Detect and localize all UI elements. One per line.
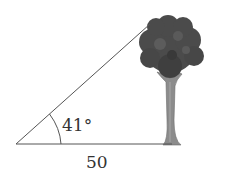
angle-arc: [50, 114, 62, 144]
angle-label: 41°: [62, 115, 92, 135]
base-length-label: 50: [86, 152, 108, 172]
triangle-tree-diagram: 41° 50: [0, 0, 235, 186]
tree: [139, 15, 204, 145]
